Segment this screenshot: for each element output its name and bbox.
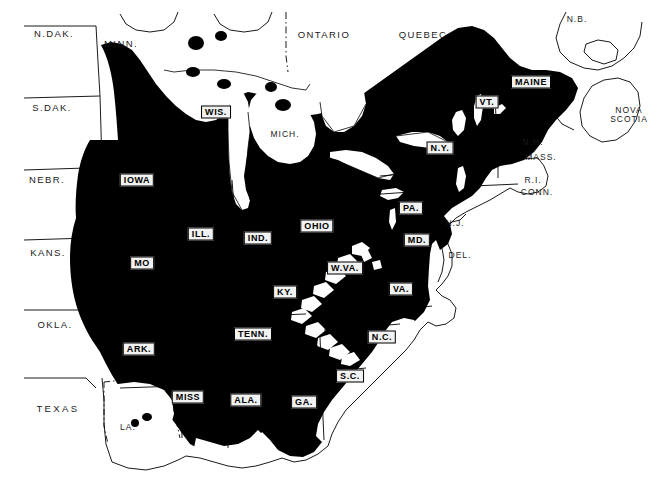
dot-minnesota-2 (215, 31, 227, 41)
dot-upper-peninsula (265, 82, 277, 92)
dot-minnesota-1 (188, 36, 204, 50)
map-artwork (0, 0, 661, 497)
dot-superior-south (186, 67, 200, 77)
dot-michigan-north (275, 99, 291, 111)
louisiana-void (99, 382, 174, 446)
dot-superior-west (217, 79, 231, 89)
distribution-map-figure: IOWAWIS.ILL.IND.OHIOMOKY.ARK.TENN.MISSAL… (0, 0, 661, 497)
dot-louisiana-1 (142, 413, 152, 421)
dot-louisiana-2 (131, 419, 139, 427)
